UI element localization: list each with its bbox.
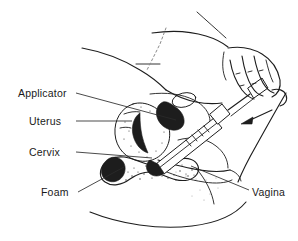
foam-dense-mass <box>101 157 125 182</box>
label-uterus: Uterus <box>29 115 61 127</box>
applicator-plunger-disc <box>248 78 268 98</box>
uterus-group <box>115 90 210 161</box>
diagram-canvas: Applicator Uterus Cervix Foam Vagina <box>0 0 298 241</box>
buttock-thigh-contour <box>90 202 246 227</box>
push-arrow <box>241 110 272 124</box>
label-foam: Foam <box>41 186 69 198</box>
applicator-plunger-shaft <box>228 94 250 110</box>
label-vagina: Vagina <box>252 186 285 198</box>
hand-wrist-contour <box>223 52 226 80</box>
sacrum-contour <box>238 93 286 182</box>
applicator-plunger-shaft-lower <box>231 99 253 116</box>
vaginal-wall-lower <box>162 170 232 183</box>
anatomical-diagram: Applicator Uterus Cervix Foam Vagina <box>0 0 298 241</box>
label-cervix: Cervix <box>29 146 61 158</box>
hand-finger-1 <box>230 60 254 99</box>
abdomen-contour-upper-left <box>82 48 166 90</box>
push-arrow-head <box>241 117 253 124</box>
label-applicator: Applicator <box>18 87 67 99</box>
pelvic-floor-contour <box>196 168 214 204</box>
